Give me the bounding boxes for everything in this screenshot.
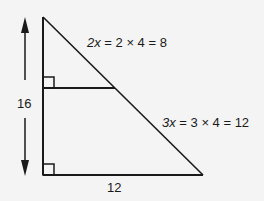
lower-segment-expr: = 3 × 4 = 12 (176, 115, 249, 130)
right-angle-marker-lower (43, 164, 54, 175)
arrow-down-icon (21, 118, 29, 176)
upper-segment-expr: = 2 × 4 = 8 (101, 35, 167, 50)
height-label: 16 (17, 97, 31, 110)
triangle-figure (0, 0, 264, 201)
arrow-up-icon (21, 17, 29, 80)
similar-triangles-diagram: 16 2x = 2 × 4 = 8 3x = 3 × 4 = 12 12 (0, 0, 264, 201)
upper-segment-var: 2x (87, 35, 101, 50)
upper-segment-label: 2x = 2 × 4 = 8 (87, 36, 167, 49)
base-label: 12 (107, 181, 121, 194)
lower-segment-label: 3x = 3 × 4 = 12 (162, 116, 249, 129)
lower-segment-var: 3x (162, 115, 176, 130)
right-angle-marker-upper (43, 77, 54, 88)
